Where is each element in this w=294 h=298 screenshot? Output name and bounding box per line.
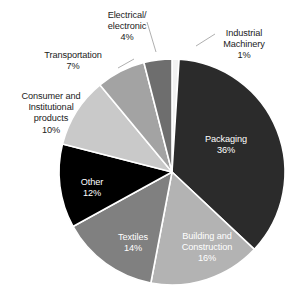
slice-label-textiles-value: 14%	[124, 243, 142, 253]
slice-label-industrial-machinery: Industrial Machinery 1%	[198, 28, 290, 62]
slice-label-textiles-name: Textiles	[118, 232, 148, 242]
slice-label-electrical-electronic: Electrical/ electronic 4%	[85, 10, 169, 44]
slice-label-packaging-value: 36%	[217, 145, 235, 155]
slice-label-building-line2: Construction	[182, 242, 232, 252]
slice-label-other-name: Other	[81, 177, 104, 187]
slice-label-other-value: 12%	[83, 188, 101, 198]
slice-label-consumer-institutional: Consumer and Institutional products 10%	[2, 91, 100, 136]
slice-label-building-line1: Building and	[182, 231, 231, 241]
pie-chart: Packaging 36% Building and Construction …	[0, 0, 294, 298]
slice-label-building-value: 16%	[198, 253, 216, 263]
slice-label-transportation: Transportation 7%	[26, 50, 120, 72]
slice-label-packaging-name: Packaging	[205, 134, 247, 144]
